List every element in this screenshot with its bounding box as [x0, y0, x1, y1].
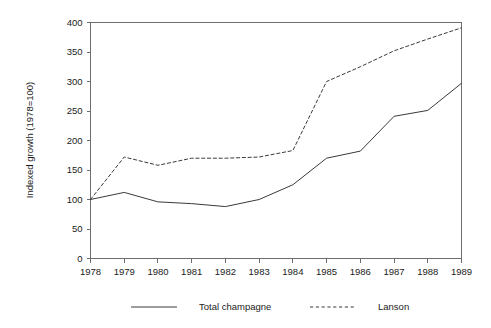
- x-tick-label: 1983: [249, 266, 270, 277]
- y-tick-label: 200: [67, 135, 83, 146]
- legend-label-1: Lanson: [378, 301, 409, 312]
- y-tick-label: 0: [77, 253, 82, 264]
- x-tick-label: 1980: [147, 266, 168, 277]
- y-tick-label: 50: [72, 223, 83, 234]
- y-tick-label: 400: [67, 17, 83, 28]
- y-tick-label: 250: [67, 105, 83, 116]
- x-tick-label: 1978: [80, 266, 101, 277]
- chart-figure: 050100150200250300350400 197819791980198…: [0, 0, 491, 328]
- x-tick-label: 1979: [114, 266, 135, 277]
- x-tick-label: 1987: [383, 266, 404, 277]
- line-chart: 050100150200250300350400 197819791980198…: [0, 0, 491, 328]
- legend-label-0: Total champagne: [199, 301, 271, 312]
- x-tick-label: 1986: [350, 266, 371, 277]
- y-tick-label: 150: [67, 164, 83, 175]
- y-tick-label: 300: [67, 76, 83, 87]
- x-tick-label: 1981: [181, 266, 202, 277]
- x-tick-label: 1985: [316, 266, 337, 277]
- x-tick-label: 1988: [417, 266, 438, 277]
- y-tick-label: 100: [67, 194, 83, 205]
- x-tick-label: 1989: [451, 266, 472, 277]
- y-axis-title: Indexed growth (1978=100): [24, 82, 35, 198]
- y-tick-label: 350: [67, 46, 83, 57]
- x-tick-label: 1982: [215, 266, 236, 277]
- x-tick-label: 1984: [282, 266, 303, 277]
